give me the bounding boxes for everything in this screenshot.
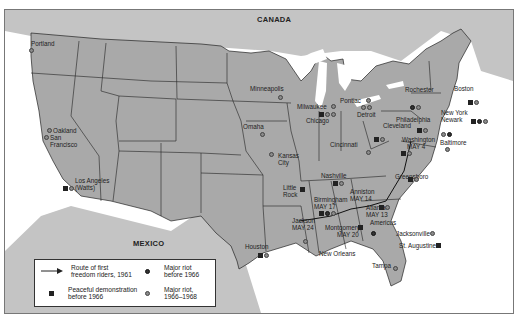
symbols-jackson [303,239,308,244]
riot-1966-1968-icon [325,112,330,117]
symbols-birmingham [319,211,336,216]
label-canada: CANADA [257,15,291,24]
city-label-atlanta-2: MAY 13 [366,212,388,219]
peaceful-demo-icon [63,186,68,191]
city-label-americus: Americus [370,220,396,227]
riot-1966-1968-icon [29,48,34,53]
city-label-newark: Newark [441,117,462,124]
riot-1966-1968-icon [331,211,336,216]
legend-peaceful-line-2: before 1966 [68,293,137,300]
riot-1966-1968-icon [367,105,372,110]
city-label-milwaukee: Milwaukee [297,104,327,111]
legend-riot-before-line-1: Major riot [164,264,199,271]
city-label-tampa: Tampa [372,263,391,270]
symbols-houston [258,253,269,258]
riot-1966-1968-icon [407,151,412,156]
symbols-boston [468,100,479,105]
city-label-birmingham-2: MAY 17 [314,204,336,211]
symbols-san-francisco [44,135,49,140]
city-label-houston: Houston [245,244,268,251]
symbols-cincinnati [366,150,371,155]
legend-peaceful: Peaceful demonstration before 1966 [49,286,137,300]
riot-before-1966-icon [145,269,150,274]
city-label-jacksonville: Jacksonville [396,231,430,238]
legend-route: Route of first freedom riders, 1961 [41,264,132,278]
riot-1966-1968-icon [483,119,488,124]
legend-peaceful-line-1: Peaceful demonstration [68,286,137,293]
city-label-portland: Portland [31,41,54,48]
riot-1966-1968-icon [385,205,390,210]
riot-1966-1968-icon [423,128,428,133]
city-label-nashville: Nashville [321,173,347,180]
symbols-tampa [393,266,398,271]
symbols-new-york [471,119,488,124]
city-label-st-augustine: St. Augustine [399,243,436,250]
symbols-washington [401,151,412,156]
symbols-portland [29,48,34,53]
city-label-washington-2: MAY 4 [407,144,425,151]
city-label-anniston-2: MAY 14 [350,196,372,203]
symbols-kansas-city [269,152,274,157]
city-label-los-angeles-2: (Watts) [75,185,95,192]
riot-1966-1968-icon [69,186,74,191]
riot-1966-1968-icon [430,231,435,236]
legend-riot-after-line-2: 1966–1968 [164,293,197,300]
city-label-baltimore: Baltimore [440,140,467,147]
symbols-chicago [319,112,336,117]
riot-1966-1968-icon [269,152,274,157]
peaceful-demo-icon [300,187,305,192]
symbols-montgomery [358,225,363,230]
city-label-philadelphia: Philadelphia [396,117,430,124]
riot-before-1966-icon [325,211,330,216]
riot-1966-1968-icon [366,150,371,155]
peaceful-demo-icon [258,253,263,258]
city-label-san-francisco-2: Francisco [50,142,77,149]
riot-1966-1968-icon [260,132,265,137]
riot-1966-1968-icon [44,135,49,140]
legend-route-line-2: freedom riders, 1961 [71,271,132,278]
peaceful-demo-icon [417,128,422,133]
symbols-baltimore [445,147,450,152]
legend-riot-before-line-2: before 1966 [164,271,199,278]
city-label-jackson-2: MAY 24 [292,225,314,232]
riot-1966-1968-icon [474,100,479,105]
city-label-cleveland: Cleveland [383,123,411,130]
riot-1966-1968-icon [441,132,446,137]
symbols-americus [371,231,376,236]
riot-1966-1968-icon [339,181,344,186]
riot-1966-1968-icon [331,112,336,117]
peaceful-demo-icon [408,177,413,182]
symbols-little-rock [300,187,305,192]
riot-1966-1968-icon [264,253,269,258]
peaceful-demo-icon [49,291,54,296]
riot-before-1966-icon [447,132,452,137]
riot-before-1966-icon [410,105,415,110]
legend-route-line-1: Route of first [71,264,132,271]
city-label-chicago: Chicago [306,118,329,125]
symbols-detroit [361,105,372,110]
city-label-rochester: Rochester [405,87,434,94]
symbols-rochester [410,105,421,110]
peaceful-demo-icon [379,205,384,210]
riot-1966-1968-icon [366,98,371,103]
riot-1966-1968-icon [445,147,450,152]
city-label-little-rock-2: Rock [283,192,297,199]
symbols-omaha [260,132,265,137]
riot-1966-1968-icon [331,104,336,109]
legend-riot-after: Major riot, 1966–1968 [145,286,197,300]
riot-1966-1968-icon [414,177,419,182]
riot-1966-1968-icon [303,239,308,244]
legend-riot-after-line-1: Major riot, [164,286,197,293]
riot-1966-1968-icon [47,128,52,133]
city-label-montgomery-2: MAY 20 [337,232,359,239]
peaceful-demo-icon [374,137,379,142]
city-label-new-orleans: New Orleans [319,251,355,258]
map-legend: Route of first freedom riders, 1961 Peac… [34,259,216,307]
peaceful-demo-icon [319,112,324,117]
label-mexico: MEXICO [133,239,164,248]
route-arrow-icon [41,267,63,275]
riot-1966-1968-icon [361,105,366,110]
symbols-philadelphia [417,128,428,133]
symbols-minneapolis [278,95,283,100]
symbols-atlanta [379,205,390,210]
